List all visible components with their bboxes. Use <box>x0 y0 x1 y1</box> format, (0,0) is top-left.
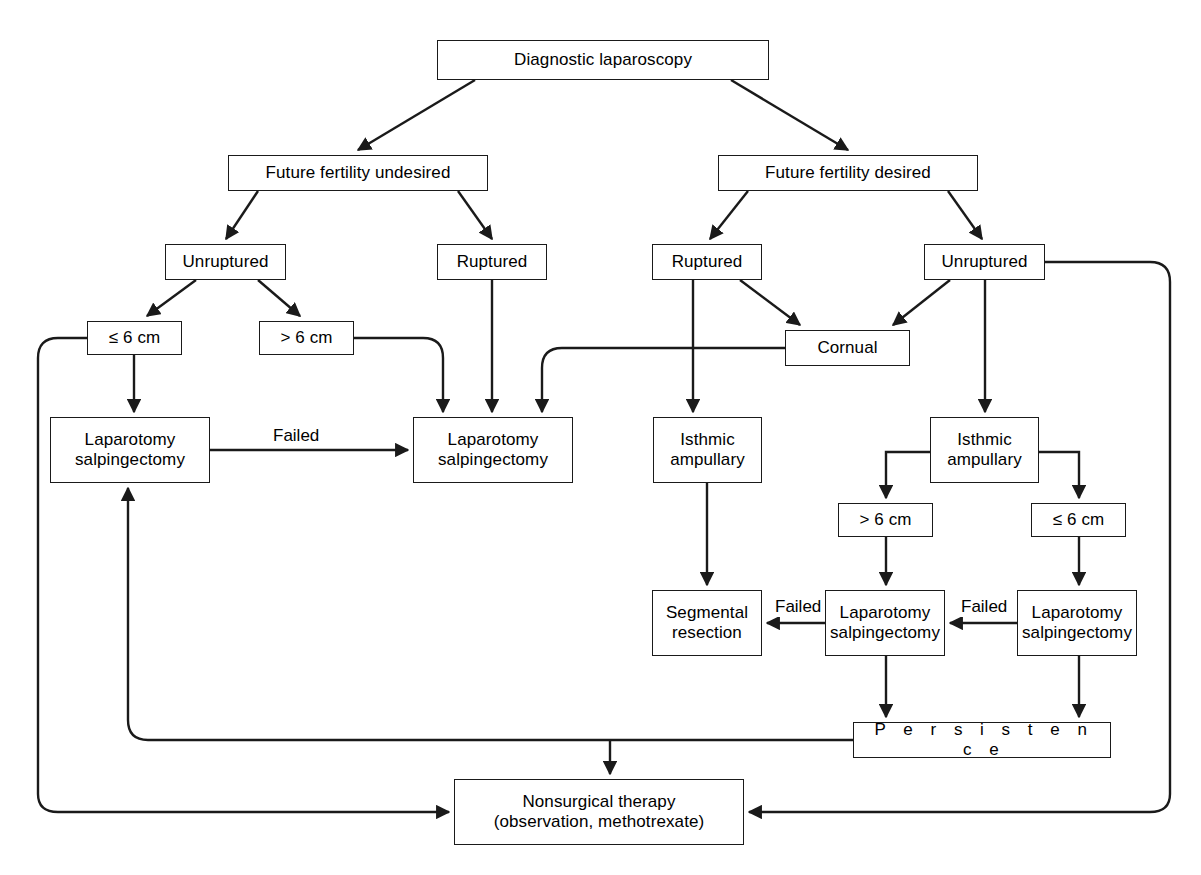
node-label: ≤ 6 cm <box>1047 510 1111 530</box>
edge-unruptured-to-le6 <box>147 280 196 316</box>
edge-gt6-to-laparotomy-mid <box>354 338 443 412</box>
node-label: Unruptured <box>176 252 274 272</box>
node-future-fertility-desired: Future fertility desired <box>718 155 978 191</box>
node-unruptured-left: Unruptured <box>165 244 286 280</box>
edge-laparoscopy-to-desired <box>731 80 848 150</box>
node-label: Unruptured <box>935 252 1033 272</box>
node-size-gt6-left: > 6 cm <box>259 321 354 355</box>
edge-label-failed-mid: Failed <box>772 597 824 617</box>
node-unruptured-right: Unruptured <box>924 244 1045 280</box>
node-diagnostic-laparoscopy: Diagnostic laparoscopy <box>437 40 769 80</box>
node-label: Isthmic ampullary <box>664 430 751 470</box>
node-size-gt6-right: > 6 cm <box>838 503 933 537</box>
edge-unruptured-to-gt6 <box>258 280 300 316</box>
node-ruptured-right: Ruptured <box>652 244 762 280</box>
edge-isthmic-right-to-le6 <box>1039 452 1079 498</box>
node-isthmic-ampullary-right: Isthmic ampullary <box>930 417 1039 483</box>
edge-label-failed-right: Failed <box>958 597 1010 617</box>
node-cornual: Cornual <box>785 330 910 366</box>
node-size-le6-left: ≤ 6 cm <box>87 321 182 355</box>
node-future-fertility-undesired: Future fertility undesired <box>228 155 488 191</box>
node-label: Laparotomy salpingectomy <box>1016 603 1138 643</box>
edge-unruptured-right-to-cornual <box>893 280 950 325</box>
node-laparotomy-salpingectomy-mid-right: Laparotomy salpingectomy <box>825 590 945 656</box>
node-isthmic-ampullary-left: Isthmic ampullary <box>653 417 762 483</box>
node-nonsurgical-therapy: Nonsurgical therapy (observation, methot… <box>454 779 744 845</box>
flowchart-canvas: Diagnostic laparoscopy Future fertility … <box>0 0 1201 875</box>
node-label: Laparotomy salpingectomy <box>432 430 554 470</box>
node-label: Segmental resection <box>660 603 754 643</box>
node-label: Future fertility desired <box>759 163 937 183</box>
edge-isthmic-right-to-gt6 <box>886 452 930 498</box>
edge-undesired-to-unruptured <box>226 191 258 239</box>
node-label: Future fertility undesired <box>260 163 457 183</box>
node-label: P e r s i s t e n c e <box>854 720 1110 760</box>
node-label: Ruptured <box>666 252 749 272</box>
node-persistence: P e r s i s t e n c e <box>853 722 1111 758</box>
node-label: Ruptured <box>451 252 534 272</box>
node-ruptured-left: Ruptured <box>437 244 547 280</box>
edge-label-failed-left: Failed <box>270 426 322 446</box>
node-label: Laparotomy salpingectomy <box>69 430 191 470</box>
edge-desired-to-ruptured <box>710 191 748 239</box>
edge-desired-to-unruptured <box>948 191 982 239</box>
node-laparotomy-salpingectomy-far-right: Laparotomy salpingectomy <box>1017 590 1137 656</box>
node-label: Cornual <box>811 338 883 358</box>
node-label: > 6 cm <box>853 510 917 530</box>
node-label: ≤ 6 cm <box>103 328 167 348</box>
node-laparotomy-salpingectomy-left: Laparotomy salpingectomy <box>50 417 210 483</box>
node-label: > 6 cm <box>274 328 338 348</box>
edge-laparoscopy-to-undesired <box>358 80 475 150</box>
node-laparotomy-salpingectomy-mid: Laparotomy salpingectomy <box>413 417 573 483</box>
node-size-le6-right: ≤ 6 cm <box>1031 503 1126 537</box>
edge-undesired-to-ruptured <box>458 191 492 239</box>
node-segmental-resection: Segmental resection <box>652 590 762 656</box>
node-label: Laparotomy salpingectomy <box>824 603 946 643</box>
node-label: Nonsurgical therapy (observation, methot… <box>488 792 711 832</box>
node-label: Diagnostic laparoscopy <box>508 50 698 70</box>
edge-ruptured-right-to-cornual <box>740 280 800 325</box>
node-label: Isthmic ampullary <box>941 430 1028 470</box>
edge-cornual-to-laparotomy-mid <box>542 348 785 412</box>
